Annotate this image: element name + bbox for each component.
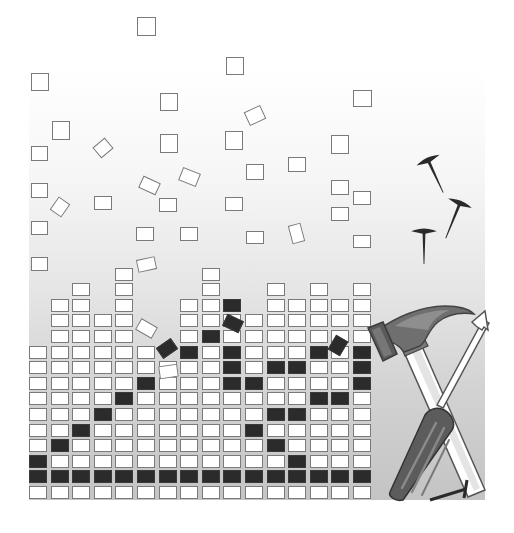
tools-layer [0,0,514,533]
nail-icon [437,198,468,241]
hammer-icon [368,306,485,497]
nail-icon [419,155,451,197]
nail-icon [415,230,433,265]
nails [415,155,469,264]
illustration [0,0,514,533]
